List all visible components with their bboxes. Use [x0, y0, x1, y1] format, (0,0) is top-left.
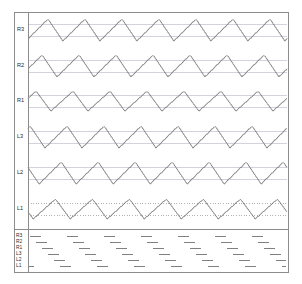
waveform-trace-l1	[28, 200, 287, 219]
plot-frame-group	[15, 13, 289, 273]
gait-trace-figure: R3R2R1L3L2L1R3R2R1L3L2L1	[0, 0, 302, 284]
trace-axis-label-r3: R3	[17, 26, 24, 32]
trace-axis-label-l1: L1	[17, 205, 23, 211]
trace-axis-label-l2: L2	[17, 169, 23, 175]
event-axis-label-l1: L1	[16, 263, 22, 268]
waveform-trace-l2	[28, 163, 287, 184]
plot-border	[15, 13, 289, 273]
trace-axis-label-l3: L3	[17, 133, 23, 139]
waveform-trace-r1	[28, 92, 287, 111]
waveform-traces-group	[28, 20, 287, 219]
trace-axis-label-r1: R1	[17, 97, 24, 103]
waveform-trace-r3	[28, 20, 287, 41]
event-axis-label-l3: L3	[16, 251, 22, 256]
channel-labels-group: R3R2R1L3L2L1R3R2R1L3L2L1	[16, 26, 24, 268]
event-axis-label-r3: R3	[16, 233, 23, 238]
event-axis-label-r1: R1	[16, 245, 23, 250]
event-axis-label-r2: R2	[16, 239, 23, 244]
waveform-trace-l3	[28, 127, 287, 148]
event-bars-group	[29, 237, 286, 267]
gridlines-group	[28, 25, 287, 216]
waveform-trace-r2	[28, 56, 287, 77]
plot-canvas: R3R2R1L3L2L1R3R2R1L3L2L1	[0, 0, 302, 284]
event-axis-label-l2: L2	[16, 257, 22, 262]
trace-axis-label-r2: R2	[17, 62, 24, 68]
